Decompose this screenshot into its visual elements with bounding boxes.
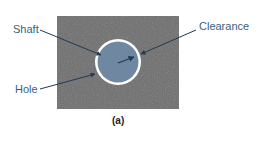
shaft xyxy=(98,42,139,83)
hole-label: Hole xyxy=(15,84,38,95)
clearance-label: Clearance xyxy=(199,21,249,32)
shaft-label: Shaft xyxy=(13,24,39,35)
shaft-hole-clearance-diagram: Shaft Hole Clearance (a) xyxy=(0,0,260,160)
figure-caption: (a) xyxy=(112,116,124,126)
